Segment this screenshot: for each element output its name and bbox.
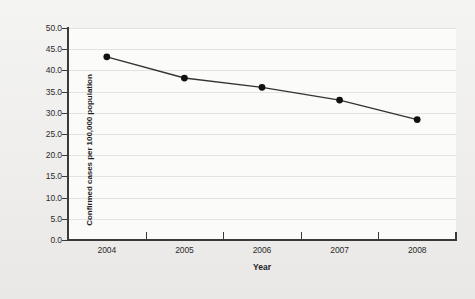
data-point <box>181 75 188 82</box>
y-axis-title: Confirmed cases per 100,000 population <box>85 74 94 225</box>
chart-figure: 0.05.010.015.020.025.030.035.040.045.050… <box>0 0 475 299</box>
data-point <box>259 84 266 91</box>
data-series-line <box>0 0 475 299</box>
data-point <box>414 116 421 123</box>
data-point <box>336 97 343 104</box>
data-point-markers <box>103 53 420 123</box>
x-axis-title: Year <box>68 262 456 272</box>
data-point <box>103 53 110 60</box>
chart-canvas: 0.05.010.015.020.025.030.035.040.045.050… <box>0 0 475 299</box>
